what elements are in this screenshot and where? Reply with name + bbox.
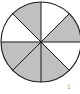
- center-point: [40, 41, 42, 43]
- corner-mark: 1: [67, 84, 71, 90]
- fraction-circle-diagram: [0, 0, 80, 94]
